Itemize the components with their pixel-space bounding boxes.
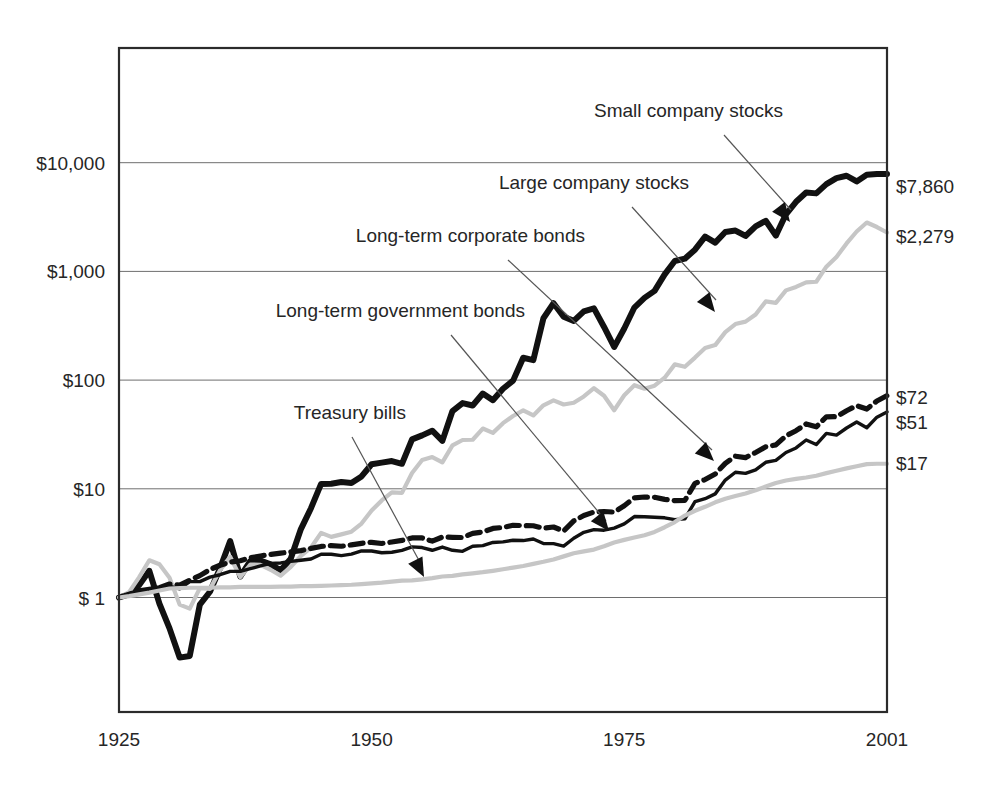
x-axis-label-2001: 2001 [866,729,908,750]
x-axis-tick-labels: 1925195019752001 [98,729,908,750]
y-axis-label-1: $ 1 [79,588,105,609]
annotation-arrow-long-term-government-bonds [591,511,615,536]
chart-canvas: $ 1$10$100$1,000$10,000 1925195019752001… [0,0,996,787]
annotation-label-large-company-stocks: Large company stocks [499,172,689,193]
end-value-large-company-stocks: $2,279 [896,226,954,247]
x-axis-label-1950: 1950 [350,729,392,750]
annotation-arrow-long-term-corporate-bonds [695,442,720,467]
series-line-small-company-stocks [119,174,887,658]
y-axis-tick-labels: $ 1$10$100$1,000$10,000 [36,153,105,609]
annotation-leader-long-term-government-bonds [451,335,606,521]
series-lines-group [119,174,887,658]
y-axis-label-10: $10 [73,479,105,500]
annotation-label-small-company-stocks: Small company stocks [594,100,783,121]
y-axis-label-10000: $10,000 [36,153,105,174]
annotation-leader-long-term-corporate-bonds [508,260,712,450]
annotation-label-long-term-government-bonds: Long-term government bonds [276,300,525,321]
y-axis-label-100: $100 [63,370,105,391]
annotation-leader-large-company-stocks [632,207,716,300]
end-value-treasury-bills: $17 [896,453,928,474]
end-value-small-company-stocks: $7,860 [896,176,954,197]
annotation-leader-small-company-stocks [724,135,791,210]
end-value-long-term-government-bonds: $51 [896,412,928,433]
annotation-arrow-large-company-stocks [697,292,721,317]
series-end-value-labels: $7,860$2,279$72$51$17 [896,176,954,474]
annotation-leader-treasury-bills [352,437,422,566]
annotation-label-treasury-bills: Treasury bills [294,402,406,423]
x-axis-label-1975: 1975 [603,729,645,750]
x-axis-label-1925: 1925 [98,729,140,750]
annotation-label-long-term-corporate-bonds: Long-term corporate bonds [356,225,585,246]
investment-growth-chart: $ 1$10$100$1,000$10,000 1925195019752001… [0,0,996,787]
series-line-treasury-bills [119,464,887,598]
y-axis-label-1000: $1,000 [47,261,105,282]
end-value-long-term-corporate-bonds: $72 [896,387,928,408]
